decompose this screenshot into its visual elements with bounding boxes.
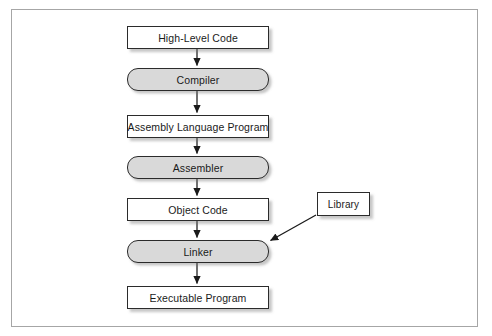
node-label: Assembly Language Program [128, 121, 269, 133]
node-label: Compiler [177, 74, 220, 86]
node-label: Executable Program [150, 292, 247, 304]
edge-library-to-linker [271, 215, 317, 241]
node-label: Object Code [168, 204, 227, 216]
node-assembler[interactable]: Assembler [127, 156, 269, 179]
node-assembly-language-program[interactable]: Assembly Language Program [127, 115, 269, 138]
node-compiler[interactable]: Compiler [127, 68, 269, 91]
node-executable-program[interactable]: Executable Program [127, 286, 269, 309]
node-label: Library [328, 199, 359, 210]
node-label: Assembler [173, 162, 224, 174]
node-label: Linker [183, 246, 212, 258]
diagram-frame: High-Level Code Compiler Assembly Langua… [11, 9, 478, 327]
diagram-canvas: High-Level Code Compiler Assembly Langua… [0, 0, 492, 336]
node-object-code[interactable]: Object Code [127, 198, 269, 221]
node-linker[interactable]: Linker [127, 240, 269, 263]
node-library[interactable]: Library [317, 192, 370, 216]
node-high-level-code[interactable]: High-Level Code [127, 26, 269, 49]
node-label: High-Level Code [158, 32, 238, 44]
